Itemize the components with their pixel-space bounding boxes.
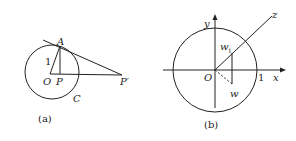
label-w: w [230,88,239,99]
label-p: P [55,76,63,87]
figure-a-labels: A 1 O P P′ C (a) [38,36,130,124]
circle-c [25,45,79,99]
segment-oa [50,46,60,74]
caption-a: (a) [38,113,52,124]
label-radius-1: 1 [45,56,51,67]
x-axis-arrow-icon [280,68,286,73]
diagram-canvas: A 1 O P P′ C (a) y z w 1 O 1 x w (b) [0,0,296,141]
label-w1-subscript: 1 [228,47,232,54]
label-o-b: O [204,72,212,83]
dashed-segment-ow [215,70,232,84]
label-z: z [271,9,278,20]
label-c: C [73,93,81,104]
figure-a [25,40,122,99]
tangent-line [43,40,122,75]
label-one: 1 [258,72,264,83]
label-x: x [273,72,279,83]
label-y: y [203,18,210,29]
y-axis-arrow-icon [213,14,218,20]
label-a: A [56,36,64,47]
caption-b: (b) [204,119,218,130]
figure-b [163,14,286,112]
label-o: O [43,76,51,87]
segment-op-prime [50,74,122,75]
label-p-prime: P′ [119,76,130,87]
